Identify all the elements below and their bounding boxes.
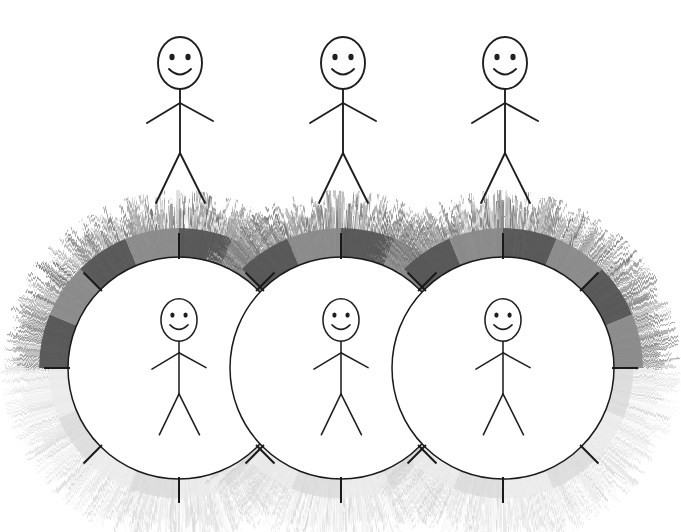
illustration-canvas: [0, 0, 681, 532]
illustration-svg: [0, 0, 681, 532]
